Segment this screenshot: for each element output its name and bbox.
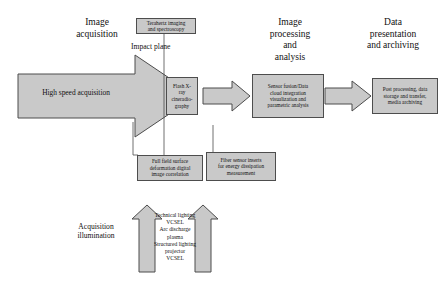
box-post-processing[interactable]: Post processing, data storage and transf… bbox=[372, 78, 438, 114]
header-data-presentation: Data presentation and archiving bbox=[345, 17, 441, 52]
header-image-acquisition: Image acquisition bbox=[47, 17, 147, 40]
box-full-field-deformation[interactable]: Full field surface deformation digital i… bbox=[137, 155, 203, 181]
label-impact-plane: Impact plane bbox=[131, 42, 199, 51]
connector-arrow-processing-to-archiving bbox=[325, 81, 371, 111]
label-acquisition-illumination: Acquisition illumination bbox=[56, 222, 136, 240]
box-sensor-fusion[interactable]: Sensor fusion/Data cloud integration vis… bbox=[252, 74, 324, 118]
box-terahertz-imaging[interactable]: Terahertz imaging and spectroscopy bbox=[136, 18, 196, 34]
box-flash-xray[interactable]: Flash X- ray cineradio- graphy bbox=[166, 77, 198, 115]
header-image-processing: Image processing and analysis bbox=[240, 17, 340, 63]
diagram-canvas: Image acquisition Image processing and a… bbox=[0, 0, 446, 283]
illumination-source-list: Technical lighting VCSEL Arc discharge p… bbox=[139, 212, 211, 262]
connector-arrow-flashxray-to-processing bbox=[203, 81, 250, 111]
main-arrow-label: High speed acquisition bbox=[20, 88, 132, 97]
box-fiber-sensor[interactable]: Fiber sensor inserts for energy dissipat… bbox=[206, 152, 276, 181]
